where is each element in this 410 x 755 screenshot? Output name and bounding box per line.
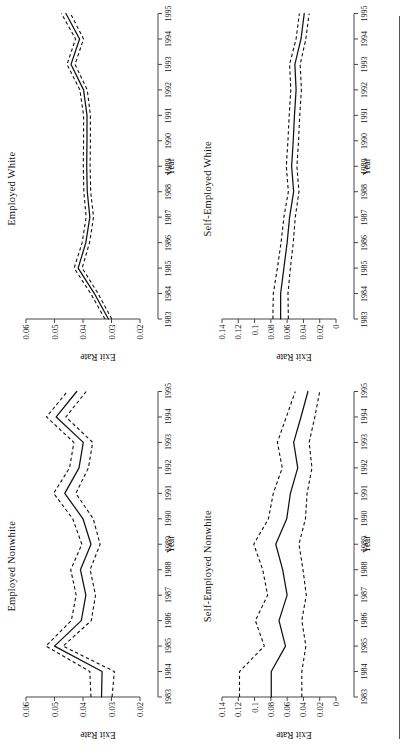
- confidence-bound-line: [70, 14, 111, 320]
- plot-svg: [26, 14, 140, 320]
- x-axis-label: Year: [362, 392, 372, 698]
- y-tick-label: 0.04: [298, 325, 308, 340]
- plot-area: 0.020.030.040.050.0619831984198519861987…: [26, 392, 140, 698]
- y-axis-label: Exit Rate: [276, 730, 312, 740]
- y-tick-label: 0.06: [282, 325, 292, 340]
- y-tick-label: 0.06: [21, 325, 31, 340]
- figure-rotation-stage: Employed Nonwhite Exit Rate 0.020.030.04…: [0, 0, 410, 755]
- y-axis-label: Exit Rate: [80, 353, 116, 363]
- confidence-bound-line: [273, 14, 299, 320]
- confidence-bound-line: [61, 14, 105, 320]
- panel-grid: Employed Nonwhite Exit Rate 0.020.030.04…: [0, 0, 392, 755]
- y-tick-label: 0.02: [135, 325, 145, 340]
- y-tick-label: 0.12: [233, 702, 243, 717]
- y-axis-label: Exit Rate: [276, 353, 312, 363]
- series-line: [55, 392, 103, 698]
- panel-title: Self-Employed White: [202, 0, 213, 378]
- y-tick-label: 0.03: [107, 702, 117, 717]
- y-tick-label: 0.04: [78, 325, 88, 340]
- y-tick-label: 0.06: [21, 702, 31, 717]
- y-tick-label: 0.05: [50, 702, 60, 717]
- panel-title: Employed Nonwhite: [6, 378, 17, 755]
- y-tick-label: 0.08: [266, 702, 276, 717]
- panel-self-employed-nonwhite: Self-Employed Nonwhite Exit Rate 00.020.…: [196, 378, 392, 755]
- plot-svg: [222, 392, 336, 698]
- series-line: [66, 14, 108, 320]
- x-axis-label: Year: [166, 392, 176, 698]
- x-axis-label: Year: [166, 14, 176, 320]
- y-tick-label: 0.1: [250, 702, 260, 713]
- figure-bottom-rule: [399, 16, 400, 739]
- y-tick-label: 0.06: [282, 702, 292, 717]
- y-axis-label: Exit Rate: [80, 730, 116, 740]
- figure-canvas: Employed Nonwhite Exit Rate 0.020.030.04…: [0, 0, 410, 755]
- y-tick-label: 0: [331, 325, 341, 329]
- y-tick-label: 0.12: [233, 325, 243, 340]
- y-tick-label: 0.04: [78, 702, 88, 717]
- confidence-bound-line: [299, 392, 320, 698]
- series-line: [281, 14, 305, 320]
- y-tick-label: 0.03: [107, 325, 117, 340]
- series-line: [271, 392, 308, 698]
- y-tick-label: 0.02: [315, 325, 325, 340]
- x-axis-label: Year: [362, 14, 372, 320]
- y-tick-label: 0.14: [217, 702, 227, 717]
- panel-title: Self-Employed Nonwhite: [202, 378, 213, 755]
- y-tick-label: 0.08: [266, 325, 276, 340]
- y-tick-label: 0.05: [50, 325, 60, 340]
- confidence-bound-line: [240, 392, 296, 698]
- panel-title: Employed White: [6, 0, 17, 378]
- plot-svg: [26, 392, 140, 698]
- y-tick-label: 0.04: [298, 702, 308, 717]
- y-tick-label: 0.02: [315, 702, 325, 717]
- y-tick-label: 0.02: [135, 702, 145, 717]
- plot-area: 00.020.040.060.080.10.120.14198319841985…: [222, 14, 336, 320]
- y-tick-label: 0: [331, 702, 341, 706]
- y-tick-label: 0.14: [217, 325, 227, 340]
- panel-employed-white: Employed White Exit Rate 0.020.030.040.0…: [0, 0, 196, 378]
- panel-employed-nonwhite: Employed Nonwhite Exit Rate 0.020.030.04…: [0, 378, 196, 755]
- confidence-bound-line: [46, 392, 91, 698]
- panel-self-employed-white: Self-Employed White Exit Rate 00.020.040…: [196, 0, 392, 378]
- y-tick-label: 0.1: [250, 325, 260, 336]
- plot-area: 00.020.040.060.080.10.120.14198319841985…: [222, 392, 336, 698]
- plot-svg: [222, 14, 336, 320]
- plot-area: 0.020.030.040.050.0619831984198519861987…: [26, 14, 140, 320]
- confidence-bound-line: [63, 392, 114, 698]
